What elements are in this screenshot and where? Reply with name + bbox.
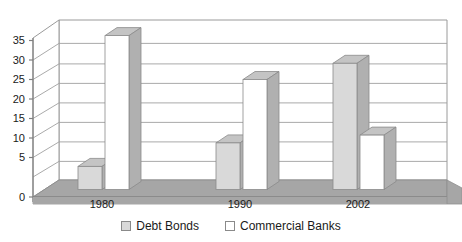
legend-item-debt-bonds[interactable]: Debt Bonds	[121, 220, 199, 232]
bar-2002-commercial-banks	[360, 127, 396, 189]
y-tick-label-30: 30	[3, 55, 25, 66]
plot-area: 35 30 25 20 15 10 5 0 1980 1990 2002 Deb…	[0, 0, 462, 242]
chart-legend: Debt Bonds Commercial Banks	[0, 220, 462, 232]
y-tick-label-10: 10	[3, 133, 25, 144]
y-tick-label-25: 25	[3, 74, 25, 85]
bar-chart: 35 30 25 20 15 10 5 0 1980 1990 2002 Deb…	[0, 0, 462, 242]
y-tick-label-20: 20	[3, 94, 25, 105]
x-tick-label-1990: 1990	[210, 198, 270, 210]
legend-label-commercial-banks: Commercial Banks	[240, 220, 341, 232]
bar-1990-commercial-banks	[243, 72, 279, 190]
legend-label-debt-bonds: Debt Bonds	[136, 220, 199, 232]
y-tick-label-15: 15	[3, 113, 25, 124]
floor-right-corner	[447, 180, 462, 204]
y-tick-label-35: 35	[3, 35, 25, 46]
left-wall	[33, 20, 59, 197]
bar-1980-commercial-banks	[105, 28, 141, 190]
y-tick-label-0: 0	[3, 192, 25, 203]
y-tick-label-5: 5	[3, 152, 25, 163]
legend-item-commercial-banks[interactable]: Commercial Banks	[225, 220, 341, 232]
x-tick-label-1980: 1980	[72, 198, 132, 210]
legend-swatch-icon	[225, 221, 235, 231]
legend-swatch-icon	[121, 221, 131, 231]
x-tick-label-2002: 2002	[328, 198, 388, 210]
